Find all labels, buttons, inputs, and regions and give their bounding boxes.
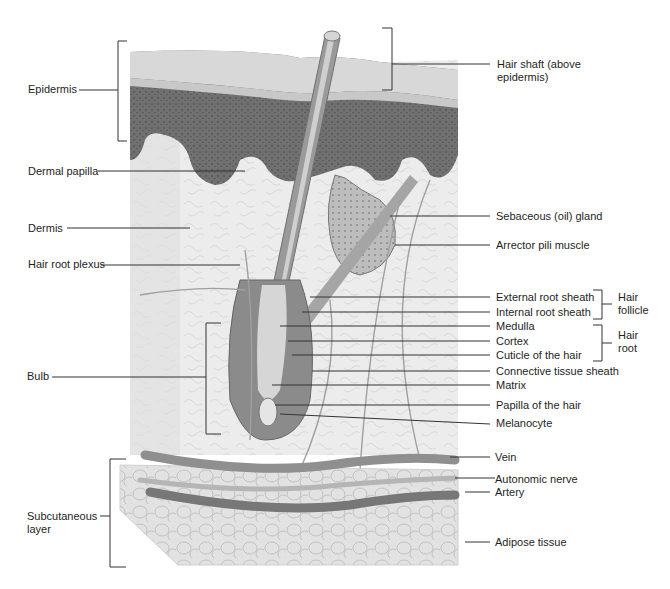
- label-external-root-sheath: External root sheath: [496, 291, 594, 304]
- label-matrix: Matrix: [496, 379, 526, 392]
- label-internal-root-sheath: Internal root sheath: [496, 306, 591, 319]
- label-hair-follicle: Hair follicle: [618, 291, 663, 317]
- label-connective-tissue-sheath: Connective tissue sheath: [496, 365, 619, 378]
- label-bulb: Bulb: [27, 370, 49, 383]
- label-vein: Vein: [495, 451, 516, 464]
- label-dermal-papilla: Dermal papilla: [28, 165, 98, 178]
- label-artery: Artery: [495, 486, 524, 499]
- label-hair-shaft: Hair shaft (above epidermis): [497, 58, 607, 84]
- label-arrector-pili: Arrector pili muscle: [496, 239, 590, 252]
- label-hair-root-plexus: Hair root plexus: [28, 258, 105, 271]
- label-dermis: Dermis: [28, 222, 63, 235]
- label-adipose-tissue: Adipose tissue: [495, 536, 567, 549]
- label-subcutaneous-layer: Subcutaneous layer: [27, 510, 107, 536]
- label-cuticle: Cuticle of the hair: [496, 349, 582, 362]
- label-papilla-of-hair: Papilla of the hair: [496, 399, 581, 412]
- label-cortex: Cortex: [496, 335, 528, 348]
- label-sebaceous-gland: Sebaceous (oil) gland: [496, 210, 602, 223]
- label-hair-root: Hair root: [618, 329, 658, 355]
- label-medulla: Medulla: [496, 320, 535, 333]
- label-melanocyte: Melanocyte: [496, 417, 552, 430]
- label-autonomic-nerve: Autonomic nerve: [495, 473, 578, 486]
- label-epidermis: Epidermis: [28, 83, 77, 96]
